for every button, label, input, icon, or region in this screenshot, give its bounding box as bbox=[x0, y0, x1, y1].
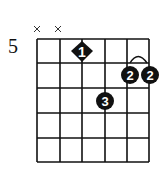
svg-text:2: 2 bbox=[126, 68, 133, 83]
svg-text:3: 3 bbox=[101, 94, 108, 109]
chord-grid: 1 2 2 3 bbox=[0, 0, 168, 173]
svg-text:2: 2 bbox=[146, 68, 153, 83]
svg-text:1: 1 bbox=[78, 44, 86, 60]
finger-dot-2b: 2 bbox=[141, 66, 159, 84]
mute-x-icon bbox=[55, 26, 61, 32]
finger-dot-3: 3 bbox=[96, 92, 114, 110]
strings bbox=[37, 39, 149, 162]
mute-x-icon bbox=[34, 26, 40, 32]
frets bbox=[37, 39, 149, 162]
finger-dot-2a: 2 bbox=[121, 66, 139, 84]
muted-string-markers bbox=[34, 26, 61, 32]
finger-dot-1: 1 bbox=[71, 41, 93, 62]
barre-arc bbox=[130, 57, 147, 64]
